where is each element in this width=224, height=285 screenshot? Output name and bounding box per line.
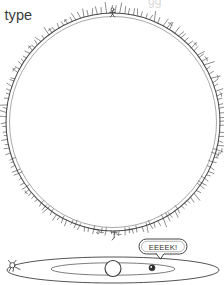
ring-top-figure (110, 8, 116, 17)
face-on-ring-figure (0, 2, 224, 240)
ring-outer-circle (6, 13, 220, 231)
ring-bottom-figure (111, 232, 117, 241)
disk-marker-dot-highlight (150, 266, 152, 268)
edge-on-disk-figure (7, 257, 219, 283)
speech-bubble: EEEEK! (139, 239, 187, 259)
disk-marker-dot (149, 265, 155, 271)
disk-left-figure (9, 260, 20, 271)
illustration-artwork: EEEEK! (0, 0, 224, 285)
ring-inner-circle (10, 17, 217, 228)
speech-bubble-text: EEEEK! (149, 243, 178, 252)
ring-spikes (0, 2, 224, 235)
illustration-page: l type gg (0, 0, 224, 285)
disk-central-bulge (105, 261, 121, 277)
